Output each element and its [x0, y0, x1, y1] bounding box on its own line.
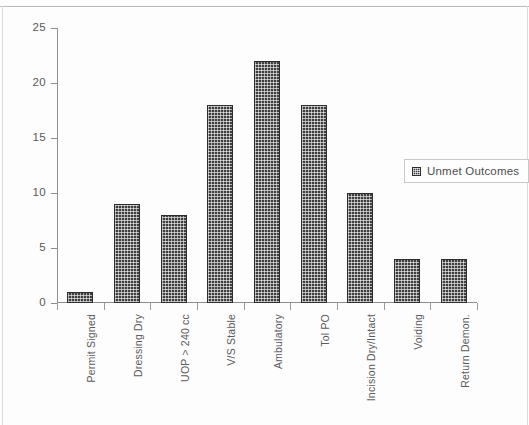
x-axis-tick	[430, 303, 431, 310]
checkered-swatch-icon	[412, 167, 421, 176]
x-axis-tick-label: Ambulatory	[272, 314, 284, 369]
y-axis-tick-label: 25	[0, 21, 46, 33]
bar	[114, 204, 140, 303]
x-axis-tick-label: Permit Signed	[85, 314, 97, 383]
y-axis-tick-label: 5	[0, 241, 46, 253]
figure-left-rule	[2, 6, 3, 425]
y-axis-tick-label: 15	[0, 131, 46, 143]
x-axis-tick	[290, 303, 291, 310]
x-axis-tick-label: Tol PO	[319, 314, 331, 347]
x-axis-tick	[57, 303, 58, 310]
bar	[254, 61, 280, 303]
x-axis-tick-label: V/S Stable	[225, 314, 237, 366]
bar	[161, 215, 187, 303]
y-axis-tick-label: 0	[0, 296, 46, 308]
x-axis-tick	[244, 303, 245, 310]
y-axis-tick-label: 20	[0, 76, 46, 88]
x-axis-tick	[384, 303, 385, 310]
figure-right-rule	[527, 6, 528, 425]
chart-legend[interactable]: Unmet Outcomes	[404, 159, 529, 183]
x-axis-tick	[150, 303, 151, 310]
bar	[67, 292, 93, 303]
y-axis-tick-label: 10	[0, 186, 46, 198]
bar-chart-figure: 0510152025 Permit SignedDressing DryUOP …	[0, 0, 529, 425]
x-axis-tick-label: Voiding	[412, 314, 424, 350]
x-axis-tick-label: UOP > 240 cc	[179, 314, 191, 382]
legend-entry-label: Unmet Outcomes	[427, 165, 519, 177]
x-axis-tick	[104, 303, 105, 310]
x-axis-tick	[337, 303, 338, 310]
x-axis-tick-label: Return Demon.	[459, 314, 471, 388]
x-axis-tick	[477, 303, 478, 310]
bar	[394, 259, 420, 303]
x-axis-tick-label: Incision Dry/Intact	[365, 314, 377, 401]
bar	[441, 259, 467, 303]
bar	[347, 193, 373, 303]
x-axis-tick	[197, 303, 198, 310]
bar	[207, 105, 233, 303]
x-axis-tick-label: Dressing Dry	[132, 314, 144, 377]
figure-top-rule	[0, 6, 529, 7]
bar	[301, 105, 327, 303]
